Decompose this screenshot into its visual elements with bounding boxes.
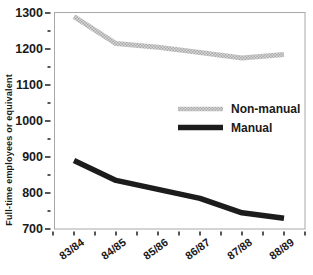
x-axis-ticks bbox=[53, 232, 305, 236]
y-tick-label: 1000 bbox=[15, 114, 43, 128]
legend-label-manual: Manual bbox=[231, 121, 272, 135]
y-axis-tick-labels: 7008009001000110012001300 bbox=[15, 6, 43, 236]
x-axis-tick-labels: 83/8484/8585/8686/8787/8888/89 bbox=[57, 235, 296, 261]
y-tick-label: 1200 bbox=[15, 42, 43, 56]
y-axis-title: Full-time employees or equivalent bbox=[4, 74, 14, 226]
y-tick-label: 900 bbox=[22, 150, 43, 164]
x-tick-label: 85/86 bbox=[141, 236, 170, 262]
x-tick-label: 88/89 bbox=[267, 236, 296, 262]
y-tick-label: 1300 bbox=[15, 6, 43, 20]
y-tick-label: 800 bbox=[22, 186, 43, 200]
x-tick-label: 86/87 bbox=[183, 236, 212, 262]
x-tick-label: 84/85 bbox=[99, 236, 128, 262]
employees-chart-figure: 7008009001000110012001300 83/8484/8585/8… bbox=[0, 0, 313, 275]
y-axis-ticks bbox=[45, 13, 51, 229]
employees-line-chart: 7008009001000110012001300 83/8484/8585/8… bbox=[0, 0, 313, 275]
x-tick-label: 83/84 bbox=[57, 235, 87, 261]
y-tick-label: 700 bbox=[22, 222, 43, 236]
x-tick-label: 87/88 bbox=[225, 236, 254, 262]
y-tick-label: 1100 bbox=[16, 78, 43, 92]
legend-label-non-manual: Non-manual bbox=[231, 102, 300, 116]
